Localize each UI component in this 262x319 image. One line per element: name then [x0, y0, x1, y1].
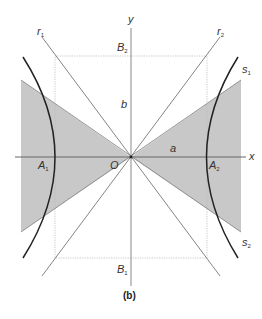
origin-point — [130, 156, 133, 159]
label-origin: O — [110, 160, 119, 171]
label-r1: r1 — [37, 26, 44, 38]
label-s2: s2 — [242, 237, 251, 249]
label-x-axis: x — [249, 151, 255, 162]
label-A1-sub: 1 — [45, 166, 48, 172]
label-y-axis: y — [128, 14, 134, 25]
label-s1-sub: 1 — [248, 70, 251, 76]
label-r2: r2 — [217, 26, 224, 38]
label-B2: B2 — [117, 42, 128, 54]
label-A2-sub: 2 — [216, 166, 219, 172]
shaded-region-right — [131, 80, 241, 232]
label-B2-sub: 2 — [124, 48, 127, 54]
hyperbola-diagram: y x r1 r2 s1 s2 B2 B1 b a O A1 A2 (b) — [0, 0, 262, 319]
label-B1-sub: 1 — [124, 270, 127, 276]
label-s2-sub: 2 — [248, 243, 251, 249]
label-r2-sub: 2 — [221, 32, 224, 38]
label-r1-sub: 1 — [41, 32, 44, 38]
label-b: b — [121, 99, 127, 110]
label-A2: A2 — [209, 160, 220, 172]
label-B1: B1 — [117, 264, 128, 276]
figure-caption: (b) — [123, 291, 136, 301]
label-s1: s1 — [242, 64, 251, 76]
shaded-region-left — [21, 80, 131, 232]
label-a: a — [170, 143, 176, 154]
label-A1: A1 — [38, 160, 49, 172]
